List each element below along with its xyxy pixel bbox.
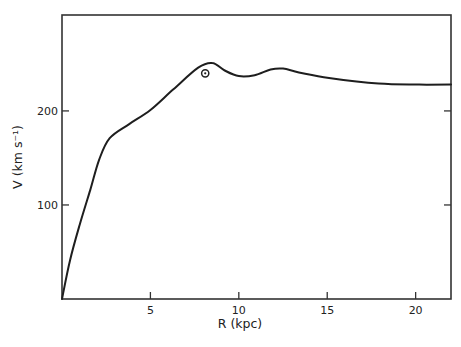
y-tick-label: 200 <box>37 105 58 118</box>
x-tick-label: 5 <box>147 304 154 317</box>
y-axis-label: V (km s⁻¹) <box>10 125 25 189</box>
rotation-curve-chart: 5101520 100200 R (kpc) V (km s⁻¹) <box>0 0 461 347</box>
sun-symbol-icon <box>202 70 209 77</box>
y-tick-label: 100 <box>37 199 58 212</box>
rotation-curve-line <box>62 63 451 299</box>
x-axis-ticks: 5101520 <box>147 292 423 317</box>
plot-frame <box>62 15 451 299</box>
x-tick-label: 15 <box>320 304 334 317</box>
x-axis-label: R (kpc) <box>218 316 262 331</box>
x-tick-label: 20 <box>409 304 423 317</box>
